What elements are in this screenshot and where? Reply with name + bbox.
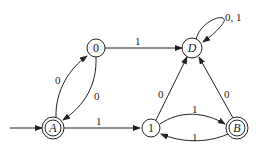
edge-label: 1 <box>96 115 102 127</box>
edge-A-to-0 <box>56 56 87 118</box>
edge-label: 1 <box>135 35 141 47</box>
state-1: 1 <box>142 119 160 137</box>
edge-label: 0 <box>158 88 164 100</box>
edge-label: 1 <box>192 131 198 143</box>
automaton-diagram: 0 0 1 1 0 1 1 0 0, 1 0 A D 1 B <box>0 0 262 154</box>
state-0: 0 <box>87 39 105 57</box>
svg-text:D: D <box>187 41 197 55</box>
state-B: B <box>226 117 248 139</box>
svg-text:A: A <box>48 121 57 135</box>
edge-label: 0, 1 <box>225 11 242 23</box>
edge-label: 0 <box>55 74 61 86</box>
edge-label: 0 <box>94 90 100 102</box>
edge-label: 0 <box>224 88 230 100</box>
state-D: D <box>182 38 202 58</box>
edge-D-self-loop <box>196 18 224 42</box>
svg-text:B: B <box>233 121 241 135</box>
edge-0-to-A <box>63 57 96 120</box>
edge-1-to-B <box>160 114 225 124</box>
svg-text:1: 1 <box>148 121 154 135</box>
svg-text:0: 0 <box>93 41 99 55</box>
state-A: A <box>42 117 64 139</box>
edge-label: 1 <box>192 103 198 115</box>
